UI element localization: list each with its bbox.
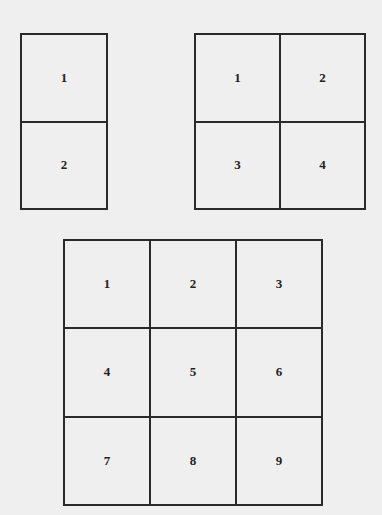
grid-cell: 1 [195,34,280,122]
grid-cell: 2 [21,122,107,210]
grid-2x2: 1 2 3 4 [194,33,366,210]
grid-cell: 4 [280,122,365,210]
grid-cell: 2 [280,34,365,122]
grid-cell: 1 [64,240,150,328]
grid-3x3: 1 2 3 4 5 6 7 8 9 [63,239,323,506]
grid-cell: 4 [64,328,150,416]
grid-cell: 8 [150,417,236,505]
grid-cell: 5 [150,328,236,416]
grid-cell: 7 [64,417,150,505]
grid-1x2: 1 2 [20,33,108,210]
grid-cell: 3 [195,122,280,210]
grid-cell: 1 [21,34,107,122]
grid-cell: 6 [236,328,322,416]
grid-cell: 2 [150,240,236,328]
grid-cell: 9 [236,417,322,505]
grid-cell: 3 [236,240,322,328]
